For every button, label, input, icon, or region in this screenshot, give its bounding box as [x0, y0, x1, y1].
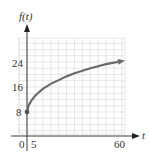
x-tick-label-0: 0 [19, 139, 25, 150]
x-axis-label: t [142, 130, 145, 141]
start-point-marker [25, 110, 30, 115]
y-tick-label-24: 24 [12, 58, 23, 69]
grid [19, 38, 125, 134]
y-axis-arrow-icon [24, 24, 30, 32]
chart [0, 0, 149, 158]
y-tick-label-16: 16 [12, 82, 23, 93]
x-tick-label-5: 5 [31, 139, 37, 150]
x-axis-arrow-icon [132, 133, 140, 139]
y-axis-label: f(t) [19, 11, 32, 22]
x-tick-label-60: 60 [114, 139, 125, 150]
y-tick-label-8: 8 [16, 107, 22, 118]
